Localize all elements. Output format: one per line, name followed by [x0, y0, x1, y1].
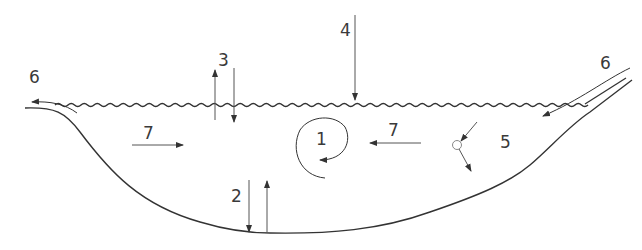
label-7-left: 7: [143, 123, 154, 143]
label-1: 1: [316, 129, 327, 149]
particle-outgoing-arrow: [459, 149, 471, 171]
particle-circle: [453, 141, 462, 150]
label-6-right: 6: [600, 53, 611, 73]
particle-incoming-arrow: [461, 122, 477, 141]
label-3: 3: [218, 50, 229, 70]
water-surface-wave: [55, 104, 588, 107]
label-4: 4: [340, 20, 351, 40]
label-7-right: 7: [388, 120, 399, 140]
lake-cross-section-diagram: 1 2 3 4 5 6 6 7 7: [0, 0, 642, 250]
label-6-left: 6: [29, 67, 40, 87]
label-5: 5: [500, 132, 511, 152]
label-2: 2: [231, 186, 242, 206]
lake-basin-outline: [25, 80, 632, 233]
